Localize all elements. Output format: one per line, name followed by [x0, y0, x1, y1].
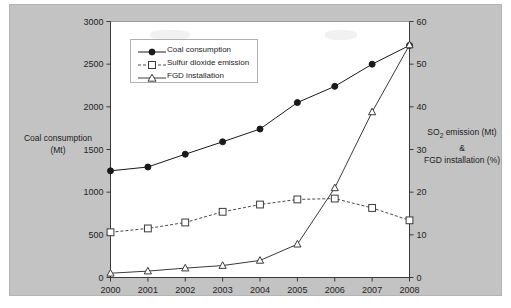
chart-legend: Coal consumption Sulfur dioxide emission… — [130, 39, 258, 83]
data-point-filled-circle — [108, 168, 114, 174]
x-tick-label: 2005 — [287, 285, 307, 295]
x-tick-label: 2001 — [138, 285, 158, 295]
data-point-open-square — [257, 201, 264, 208]
legend-item-fgd-installation: FGD installation — [137, 69, 257, 82]
x-tick-label: 2002 — [175, 285, 195, 295]
data-point-filled-circle — [220, 139, 226, 145]
data-point-open-square — [144, 225, 151, 232]
left-tick-label: 1000 — [83, 187, 103, 197]
data-point-filled-circle — [145, 164, 151, 170]
right-tick-label: 60 — [417, 17, 427, 27]
right-tick-label: 10 — [417, 230, 427, 240]
legend-label-fgd-installation: FGD installation — [167, 70, 224, 82]
data-point-open-square — [369, 205, 376, 212]
legend-item-coal-consumption: Coal consumption — [137, 43, 257, 56]
data-point-open-square — [294, 196, 301, 203]
so2-suffix: emission (Mt) — [443, 127, 496, 137]
left-tick-label: 500 — [88, 230, 103, 240]
right-tick-label: 0 — [417, 273, 422, 283]
right-axis-title: SO2 emission (Mt) & FGD installation (%) — [418, 126, 506, 166]
left-tick-label: 2500 — [83, 59, 103, 69]
right-tick-label: 20 — [417, 187, 427, 197]
right-axis-title-line1: SO2 emission (Mt) — [418, 126, 506, 142]
legend-label-sulfur-dioxide-emission: Sulfur dioxide emission — [167, 57, 249, 69]
data-point-open-square — [406, 217, 413, 224]
left-axis-title-line1: Coal consumption — [12, 132, 104, 144]
data-point-open-triangle — [256, 257, 263, 264]
left-tick-label: 0 — [98, 273, 103, 283]
right-tick-label: 50 — [417, 59, 427, 69]
x-tick-label: 2003 — [213, 285, 233, 295]
legend-marker-open-triangle-icon — [137, 70, 167, 82]
left-axis-title-line2: (Mt) — [12, 144, 104, 156]
x-tick-label: 2000 — [100, 285, 120, 295]
so2-prefix: SO — [427, 127, 439, 137]
data-point-open-square — [331, 195, 338, 202]
x-tick-label: 2008 — [399, 285, 419, 295]
data-point-open-square — [107, 229, 114, 236]
x-tick-label: 2006 — [325, 285, 345, 295]
legend-marker-open-square-icon — [137, 57, 167, 69]
right-axis-title-line3: FGD installation (%) — [418, 154, 506, 166]
data-point-filled-circle — [182, 151, 188, 157]
right-tick-label: 40 — [417, 102, 427, 112]
x-axis-ticks: 200020012002200320042005200620072008 — [100, 278, 419, 295]
legend-marker-filled-circle-icon — [137, 44, 167, 56]
left-axis-title: Coal consumption (Mt) — [12, 132, 104, 156]
left-tick-label: 3000 — [83, 17, 103, 27]
data-point-open-square — [182, 219, 189, 226]
left-tick-label: 2000 — [83, 102, 103, 112]
right-axis-title-line2: & — [418, 142, 506, 154]
data-point-open-triangle — [294, 240, 301, 247]
data-point-filled-circle — [369, 61, 375, 67]
data-point-open-triangle — [331, 184, 338, 191]
chart-figure: 050010001500200025003000 0102030405060 2… — [0, 0, 511, 308]
data-point-filled-circle — [294, 100, 300, 106]
x-tick-label: 2007 — [362, 285, 382, 295]
data-point-filled-circle — [257, 126, 263, 132]
data-point-open-triangle — [369, 108, 376, 115]
data-point-open-square — [219, 208, 226, 215]
legend-label-coal-consumption: Coal consumption — [167, 44, 231, 56]
legend-item-sulfur-dioxide-emission: Sulfur dioxide emission — [137, 56, 257, 69]
x-tick-label: 2004 — [250, 285, 270, 295]
data-point-filled-circle — [332, 83, 338, 89]
